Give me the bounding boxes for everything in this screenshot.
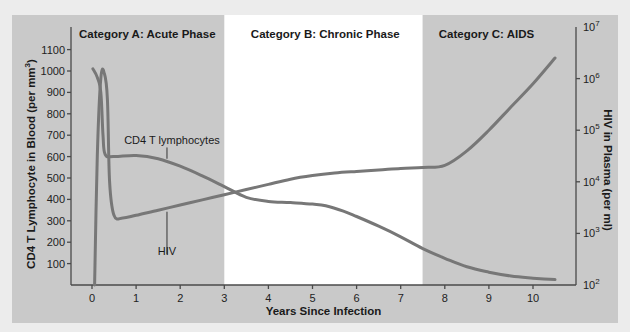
cd4-series-label: CD4 T lymphocytes (124, 134, 220, 146)
left-tick-label: 900 (47, 86, 65, 98)
chart-canvas: 1002003004005006007008009001000110001234… (0, 0, 630, 332)
category-label-2: Category B: Chronic Phase (251, 28, 400, 40)
phase-region-3 (423, 15, 618, 285)
phase-region-2 (224, 15, 422, 285)
x-tick-label: 1 (133, 292, 139, 304)
left-tick-label: 400 (47, 193, 65, 205)
hiv-series-label: HIV (158, 245, 177, 257)
x-tick-label: 3 (221, 292, 227, 304)
left-tick-label: 700 (47, 129, 65, 141)
hiv-cd4-chart: 1002003004005006007008009001000110001234… (0, 0, 630, 332)
left-tick-label: 300 (47, 215, 65, 227)
x-tick-label: 6 (354, 292, 360, 304)
left-tick-label: 500 (47, 172, 65, 184)
x-tick-label: 5 (309, 292, 315, 304)
x-axis-title: Years Since Infection (266, 305, 382, 317)
x-tick-label: 10 (527, 292, 539, 304)
category-label-3: Category C: AIDS (439, 28, 535, 40)
x-tick-label: 9 (486, 292, 492, 304)
x-tick-label: 0 (89, 292, 95, 304)
left-tick-label: 100 (47, 258, 65, 270)
x-tick-label: 4 (265, 292, 271, 304)
category-label-1: Category A: Acute Phase (79, 28, 216, 40)
left-tick-label: 200 (47, 236, 65, 248)
left-tick-label: 1000 (41, 65, 65, 77)
x-tick-label: 8 (442, 292, 448, 304)
left-tick-label: 800 (47, 108, 65, 120)
left-axis-title: CD4 T Lymphocyte in Blood (per mm3) (23, 59, 37, 269)
right-axis-title: HIV in Plasma (per ml) (602, 109, 614, 231)
left-tick-label: 600 (47, 151, 65, 163)
x-tick-label: 7 (398, 292, 404, 304)
x-tick-label: 2 (177, 292, 183, 304)
left-tick-label: 1100 (41, 44, 65, 56)
